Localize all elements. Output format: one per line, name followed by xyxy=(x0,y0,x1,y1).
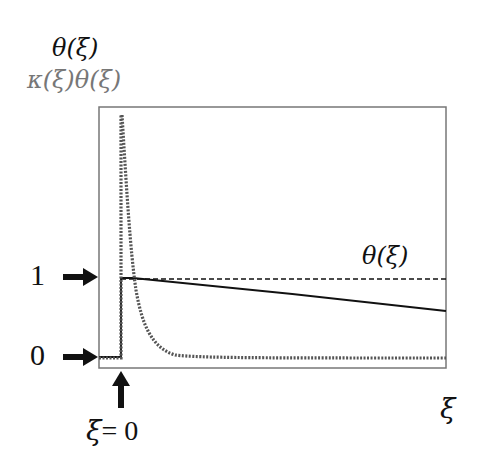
theta-solid-curve xyxy=(99,278,446,357)
right-arrow-icon xyxy=(63,268,98,286)
plot-frame xyxy=(99,107,446,368)
right-arrow-icon xyxy=(63,348,98,366)
up-arrow-icon xyxy=(112,371,130,408)
kappa-theta-dotted-curve xyxy=(99,115,446,358)
diagram-canvas xyxy=(0,0,482,466)
